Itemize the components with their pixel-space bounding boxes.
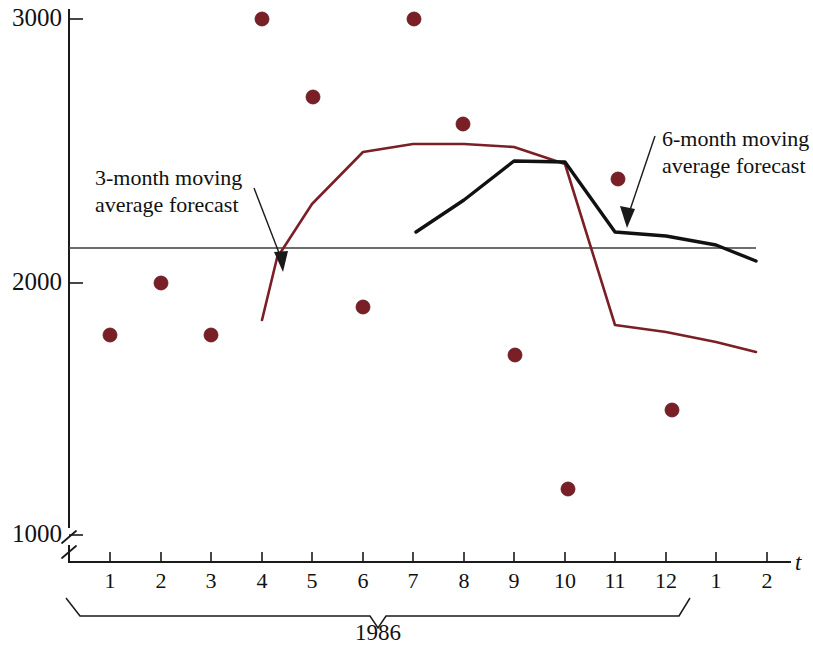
data-point: [356, 300, 370, 314]
annotation-six-month-leader: [630, 136, 655, 210]
x-tick-label-5: 5: [307, 568, 318, 593]
chart-svg: 3000 2000 1000 1 2 3 4 5 6 7: [0, 0, 813, 646]
x-axis-variable-label: t: [795, 550, 802, 575]
x-tick-label-8: 8: [459, 568, 470, 593]
data-point: [103, 328, 117, 342]
x-tick-label-10: 10: [554, 568, 576, 593]
data-point: [154, 276, 168, 290]
x-tick-label-next-2: 2: [762, 568, 773, 593]
annotation-three-month: 3-month moving average forecast: [95, 165, 288, 272]
x-tick-label-2: 2: [156, 568, 167, 593]
data-point: [255, 12, 269, 26]
data-point: [611, 172, 625, 186]
x-axis-ticks: [110, 552, 767, 562]
annotation-three-month-line1: 3-month moving: [95, 165, 242, 190]
chart-figure: 3000 2000 1000 1 2 3 4 5 6 7: [0, 0, 813, 646]
arrow-down-icon: [620, 206, 635, 228]
annotation-three-month-line2: average forecast: [95, 192, 239, 217]
y-tick-label-3000: 3000: [12, 4, 62, 31]
period-label-1986: 1986: [355, 620, 401, 645]
x-tick-label-7: 7: [408, 568, 419, 593]
data-point: [561, 482, 575, 496]
x-tick-label-12: 12: [655, 568, 677, 593]
annotation-six-month-line1: 6-month moving: [662, 126, 809, 151]
data-point: [306, 90, 320, 104]
y-tick-label-1000: 1000: [12, 520, 62, 547]
data-point: [665, 403, 679, 417]
x-tick-label-1: 1: [105, 568, 116, 593]
x-tick-label-9: 9: [509, 568, 520, 593]
x-tick-label-4: 4: [257, 568, 268, 593]
data-point: [456, 117, 470, 131]
data-point: [204, 328, 218, 342]
x-tick-label-3: 3: [206, 568, 217, 593]
data-point: [407, 12, 421, 26]
annotation-six-month-line2: average forecast: [662, 153, 806, 178]
y-tick-label-2000: 2000: [12, 268, 62, 295]
x-tick-label-next-1: 1: [711, 568, 722, 593]
x-tick-label-6: 6: [358, 568, 369, 593]
x-tick-label-11: 11: [604, 568, 625, 593]
annotation-six-month: 6-month moving average forecast: [620, 126, 809, 228]
data-point: [508, 348, 522, 362]
